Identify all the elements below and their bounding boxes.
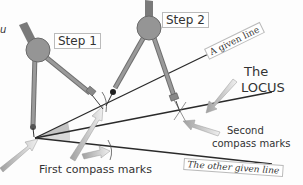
locus-label-line2: LOCUS <box>241 80 285 95</box>
arrow-to-locus <box>206 79 237 113</box>
edge-text-fragment: u <box>0 24 6 35</box>
second-marks-label-line1: Second <box>227 125 264 136</box>
arrow-to-vertex <box>0 139 38 172</box>
locus-label-line1: The <box>244 64 268 79</box>
arrow-to-first-mark-lower <box>82 146 110 159</box>
step2-label: Step 2 <box>162 12 209 28</box>
first-compass-mark-lower <box>108 140 112 160</box>
second-marks-label-line2: compass marks <box>212 138 290 149</box>
step1-label: Step 1 <box>54 33 101 49</box>
first-marks-label: First compass marks <box>39 163 152 176</box>
arrow-to-second-mark <box>183 120 220 136</box>
locus-diagram: u Step 1 Step 2 A given line The LOCUS S… <box>0 0 303 185</box>
